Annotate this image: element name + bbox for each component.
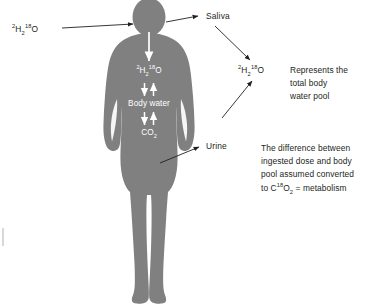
saliva-to-pool-arrow [215, 26, 250, 60]
pool-note-line-3: water pool [290, 90, 366, 103]
pool-marker-o: O [258, 65, 265, 75]
dose-label: 2H218O [12, 23, 38, 36]
dose-label-sub2: 2 [22, 30, 25, 36]
body-chain-middle-label: Body water [114, 99, 184, 108]
metabolism-formula-element: O [283, 183, 290, 193]
pool-marker-label: 2H218O [238, 64, 264, 77]
body-chain-top-sub2: 2 [146, 71, 149, 77]
body-chain-bottom-sub: 2 [154, 133, 157, 139]
left-edge-artifact [2, 228, 4, 246]
body-chain-bottom-label: CO2 [124, 128, 174, 137]
body-chain-bottom-element: CO [141, 128, 153, 137]
pool-note-line-1: Represents the [290, 64, 366, 77]
saliva-label: Saliva [206, 10, 230, 23]
metabolism-formula-prefix: to C [261, 183, 277, 193]
urine-label: Urine [206, 140, 227, 153]
metabolism-note-line-3: pool assumed converted [261, 168, 366, 181]
pool-note-line-2: total body [290, 77, 366, 90]
metabolism-formula-suffix: = metabolism [293, 183, 346, 193]
diagram-canvas: 2H218O Saliva Urine 2H218O 2H218O Body w… [0, 0, 366, 306]
dose-to-mouth-arrow [62, 24, 133, 28]
metabolism-note-line-1: The difference between [261, 142, 366, 155]
pool-marker-sub2: 2 [248, 71, 251, 77]
urine-to-pool-arrow [222, 81, 252, 118]
metabolism-note-line-4: to C18O2 = metabolism [261, 182, 366, 195]
mouth-to-saliva-arrow [166, 16, 198, 22]
dose-label-isotope-o: 18 [25, 23, 32, 29]
metabolism-note-line-2: ingested dose and body [261, 155, 366, 168]
metabolism-note: The difference between ingested dose and… [261, 142, 366, 195]
pool-marker-isotope-o: 18 [251, 64, 258, 70]
body-chain-top-label: 2H218O [119, 66, 179, 75]
pool-note: Represents the total body water pool [290, 64, 366, 104]
dose-label-o: O [32, 24, 39, 34]
body-chain-top-o: O [155, 66, 161, 75]
